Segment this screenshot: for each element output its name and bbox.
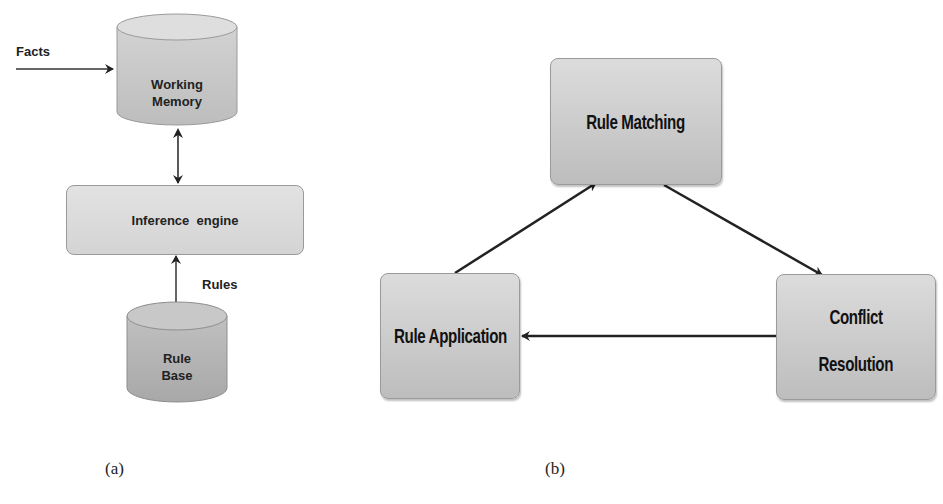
- caption-b: (b): [545, 459, 565, 479]
- inference-engine-box: Inference engine: [66, 185, 304, 255]
- matching-to-conflict-arrow: [664, 185, 822, 275]
- rule-matching-label: Rule Matching: [587, 106, 686, 138]
- rule-base-label: Rule Base: [127, 350, 227, 384]
- rule-matching-box: Rule Matching: [550, 58, 722, 185]
- conflict-line2: Resolution: [819, 344, 894, 384]
- facts-label: Facts: [16, 44, 50, 59]
- rule-application-label: Rule Application: [394, 320, 507, 352]
- inference-engine-label: Inference engine: [132, 213, 239, 228]
- caption-a: (a): [105, 459, 124, 479]
- rule-application-box: Rule Application: [380, 273, 520, 399]
- application-to-matching-arrow: [455, 183, 596, 273]
- working-memory-line2: Memory: [117, 93, 237, 110]
- conflict-line1: Conflict: [829, 290, 882, 344]
- rule-base-line2: Base: [127, 367, 227, 384]
- working-memory-label: Working Memory: [117, 76, 237, 110]
- rules-label: Rules: [202, 277, 237, 292]
- rule-base-line1: Rule: [127, 350, 227, 367]
- conflict-resolution-box: Conflict Resolution: [776, 274, 936, 400]
- working-memory-line1: Working: [117, 76, 237, 93]
